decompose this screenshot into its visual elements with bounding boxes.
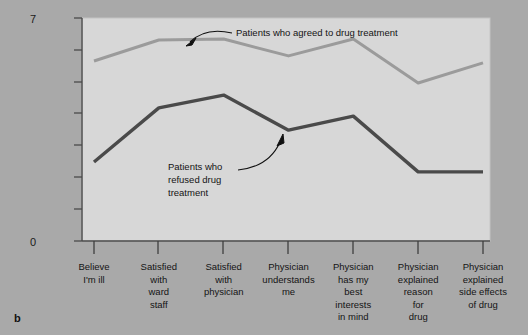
figure-panel-b: 7 0 Patients who agreed to drug treatmen… — [0, 0, 528, 335]
x-axis-category-label-1: Believe — [78, 261, 109, 272]
y-axis-bottom-label: 0 — [30, 236, 36, 248]
x-axis-category-label-2: Satisfied — [141, 261, 177, 272]
x-axis-category-label-5: Physician — [333, 261, 374, 272]
x-axis-category-label-2: staff — [150, 299, 168, 310]
x-axis-category-label-6: reason — [404, 286, 433, 297]
refused-annotation-label-line2: refused drug — [168, 174, 221, 185]
x-axis-category-label-7: of drug — [468, 299, 498, 310]
x-axis-category-label-5: best — [344, 286, 362, 297]
x-axis-category-label-4: understands — [262, 274, 315, 285]
x-axis-category-label-1: I'm ill — [83, 274, 104, 285]
refused-annotation-label-line1: Patients who — [168, 161, 222, 172]
x-axis-category-label-7: side effects — [459, 286, 507, 297]
x-axis-category-label-7: explained — [463, 274, 504, 285]
x-axis-category-label-5: has my — [338, 274, 369, 285]
y-axis-top-label: 7 — [30, 13, 36, 25]
x-axis-category-label-2: ward — [148, 286, 170, 297]
x-axis-category-label-2: with — [149, 274, 167, 285]
x-axis-category-label-6: for — [413, 299, 424, 310]
x-axis-category-label-3: with — [214, 274, 232, 285]
x-axis-category-label-5: interests — [335, 299, 371, 310]
x-axis-category-label-6: drug — [409, 311, 428, 322]
x-axis-category-label-6: explained — [398, 274, 439, 285]
x-axis-category-label-5: in mind — [338, 311, 369, 322]
x-axis-category-label-4: Physician — [268, 261, 309, 272]
x-axis-category-label-3: physician — [204, 286, 244, 297]
panel-letter: b — [14, 312, 21, 324]
x-axis-category-label-4: me — [282, 286, 295, 297]
line-chart: 7 0 Patients who agreed to drug treatmen… — [0, 0, 528, 335]
x-axis-category-label-3: Satisfied — [205, 261, 241, 272]
x-axis-category-label-6: Physician — [398, 261, 439, 272]
x-axis-category-label-7: Physician — [463, 261, 504, 272]
agreed-annotation-label: Patients who agreed to drug treatment — [236, 27, 398, 38]
refused-annotation-label-line3: treatment — [168, 187, 208, 198]
